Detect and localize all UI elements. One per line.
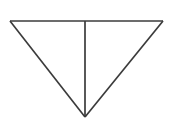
- figure-canvas: [0, 0, 173, 131]
- geometric-figure-svg: [0, 0, 173, 131]
